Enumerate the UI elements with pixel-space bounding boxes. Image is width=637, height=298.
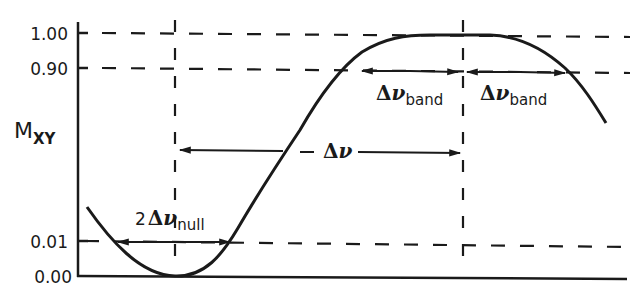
- transition-arrow-left: [180, 150, 283, 151]
- band-right-label: Δνband: [480, 81, 547, 109]
- tick-label-0-00: 0.00: [34, 267, 72, 287]
- x-axis: [77, 276, 627, 279]
- ref-line-1-00: [102, 33, 630, 37]
- band-left-label: Δνband: [376, 81, 443, 109]
- tick-label-0-90: 0.90: [30, 59, 68, 79]
- band-left-arrow-right: [410, 71, 458, 72]
- y-axis-label: MXY: [14, 118, 57, 148]
- band-right-arrow-right: [520, 72, 565, 73]
- transition-arrow-right: [358, 152, 460, 153]
- tick-label-0-01: 0.01: [30, 232, 68, 252]
- tick-label-1-00: 1.00: [30, 24, 68, 44]
- transition-label: Δν: [323, 139, 353, 163]
- magnetization-profile-diagram: 1.00 0.90 0.01 0.00 MXY 2Δνnull Δν Δνban…: [0, 0, 637, 298]
- null-width-label: 2Δνnull: [135, 206, 205, 234]
